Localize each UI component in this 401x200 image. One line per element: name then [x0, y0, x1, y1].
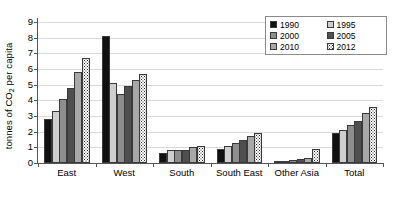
legend-label: 1995: [337, 20, 356, 30]
x-axis-category-label: West: [114, 167, 135, 179]
y-axis-tick-label: 3: [28, 111, 33, 121]
x-axis-separator-tick: [383, 163, 384, 167]
x-axis-category-labels: EastWestSouthSouth EastOther AsiaTotal: [38, 167, 383, 183]
x-axis-separator-tick: [326, 163, 327, 167]
x-axis-category-label: Other Asia: [275, 167, 319, 179]
y-axis-tick-label: 4: [28, 96, 33, 106]
x-axis-category-label: Total: [344, 167, 364, 179]
legend-row: 19901995: [270, 19, 383, 30]
bar: [254, 133, 262, 163]
bar: [82, 58, 90, 163]
y-axis-title: tonnes of CO2 per capita: [0, 11, 18, 181]
x-axis-separator-tick: [153, 163, 154, 167]
bar: [369, 107, 377, 163]
legend-swatch-icon: [327, 32, 334, 39]
legend-row: 20002005: [270, 30, 383, 41]
bar: [312, 149, 320, 163]
x-axis-separator-tick: [96, 163, 97, 167]
legend-label: 2012: [337, 42, 356, 52]
legend-swatch-icon: [327, 21, 334, 28]
bar: [139, 74, 147, 163]
y-axis-tick-label: 8: [28, 33, 33, 43]
legend-swatch-icon: [327, 43, 334, 50]
x-axis-separator-tick: [268, 163, 269, 167]
legend-item-1995[interactable]: 1995: [327, 20, 384, 30]
legend: 199019952000200520102012: [265, 16, 387, 55]
y-axis-tick-label: 1: [28, 143, 33, 153]
y-axis-tick-label: 0: [28, 158, 33, 168]
legend-swatch-icon: [270, 21, 277, 28]
bar-chart: tonnes of CO2 per capita 0123456789 East…: [0, 0, 401, 200]
x-axis-category-label: South: [169, 167, 194, 179]
legend-label: 2005: [337, 31, 356, 41]
y-axis-title-subscript: 2: [8, 88, 15, 92]
x-axis-separator-tick: [38, 163, 39, 167]
legend-item-2012[interactable]: 2012: [327, 42, 384, 52]
bar-group: [159, 22, 204, 163]
y-axis-tick-label: 9: [28, 17, 33, 27]
y-axis-tick-label: 5: [28, 80, 33, 90]
bar: [197, 146, 205, 163]
y-axis-tick-label: 2: [28, 127, 33, 137]
y-axis-tick-label: 6: [28, 64, 33, 74]
legend-item-2010[interactable]: 2010: [270, 42, 327, 52]
legend-row: 20102012: [270, 41, 383, 52]
bar-group: [217, 22, 262, 163]
legend-label: 2000: [280, 31, 299, 41]
legend-item-2000[interactable]: 2000: [270, 31, 327, 41]
x-axis-separator-tick: [211, 163, 212, 167]
legend-swatch-icon: [270, 32, 277, 39]
legend-label: 2010: [280, 42, 299, 52]
x-axis-category-label: East: [57, 167, 76, 179]
bar-group: [44, 22, 89, 163]
x-axis-category-label: South East: [216, 167, 262, 179]
legend-label: 1990: [280, 20, 299, 30]
legend-item-2005[interactable]: 2005: [327, 31, 384, 41]
legend-item-1990[interactable]: 1990: [270, 20, 327, 30]
bar-group: [102, 22, 147, 163]
y-axis-title-suffix: per capita: [3, 43, 14, 88]
y-axis-title-prefix: tonnes of CO: [3, 92, 14, 149]
y-axis-tick-label: 7: [28, 49, 33, 59]
legend-swatch-icon: [270, 43, 277, 50]
